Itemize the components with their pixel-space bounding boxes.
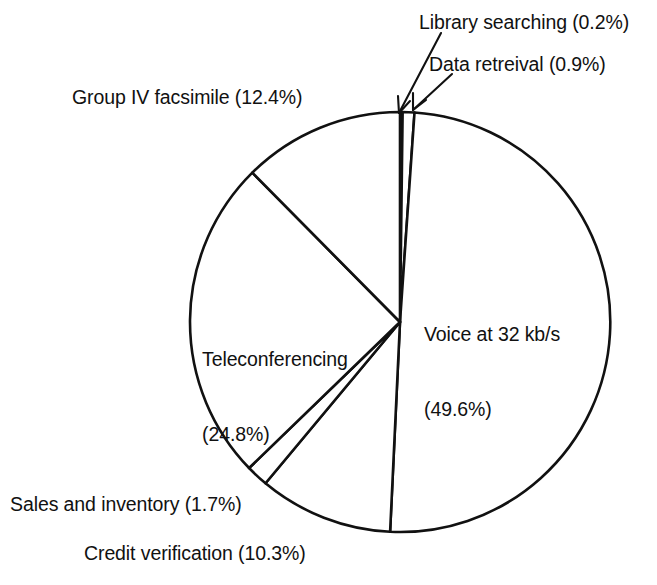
- slice-label-data-retrieval: Data retreival (0.9%): [429, 52, 606, 77]
- pie-chart: Library searching (0.2%) Data retreival …: [0, 0, 657, 585]
- slice-label-group-iv-facsimile: Group IV facsimile (12.4%): [72, 85, 302, 110]
- slice-label-teleconferencing-line2: (24.8%): [202, 422, 348, 447]
- slice-label-voice-line1: Voice at 32 kb/s: [424, 322, 560, 347]
- slice-label-library-searching: Library searching (0.2%): [419, 10, 629, 35]
- slice-label-voice-at-32-kbs: Voice at 32 kb/s (49.6%): [424, 272, 560, 472]
- slice-label-credit-verification: Credit verification (10.3%): [84, 541, 306, 566]
- slice-label-teleconferencing: Teleconferencing (24.8%): [202, 297, 348, 497]
- slice-label-teleconferencing-line1: Teleconferencing: [202, 347, 348, 372]
- slice-label-sales-and-inventory: Sales and inventory (1.7%): [10, 492, 242, 517]
- leader-arrowhead-data-retrieval: [413, 93, 426, 110]
- slice-label-voice-line2: (49.6%): [424, 397, 560, 422]
